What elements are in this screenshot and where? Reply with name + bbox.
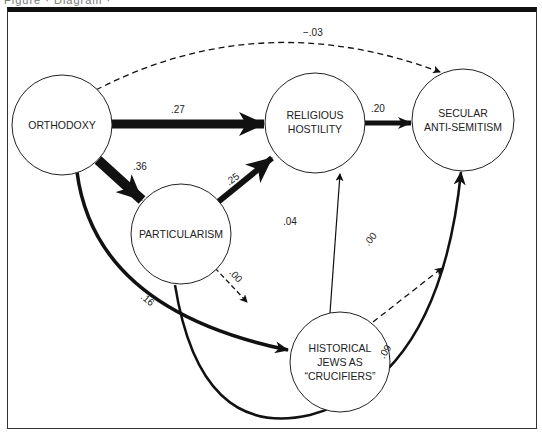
path-diagram: ORTHODOXY RELIGIOUS HOSTILITY SECULAR AN… [0,0,542,433]
coef-orthodoxy-secular: −.03 [303,27,323,38]
node-historical-jews: HISTORICAL JEWS AS “CRUCIFIERS” [290,312,390,412]
svg-text:PARTICULARISM: PARTICULARISM [139,228,223,240]
edge-orthodoxy-secular [96,42,440,90]
node-orthodoxy: ORTHODOXY [12,75,112,175]
coef-orthodoxy-historical-jews: .16 [139,291,157,309]
svg-text:SECULAR: SECULAR [438,107,488,119]
node-religious-hostility: RELIGIOUS HOSTILITY [265,73,365,173]
coef-orthodoxy-particularism: .36 [133,161,147,172]
svg-text:ORTHODOXY: ORTHODOXY [28,119,95,131]
svg-text:RELIGIOUS: RELIGIOUS [286,109,343,121]
coef-historical-jews-secular: .00 [362,230,380,248]
svg-text:ANTI-SEMITISM: ANTI-SEMITISM [424,121,502,133]
svg-text:HOSTILITY: HOSTILITY [288,123,342,135]
coef-religious-hostility-secular: .20 [371,103,385,114]
node-secular-antisemitism: SECULAR ANTI-SEMITISM [412,69,514,171]
svg-text:JEWS AS: JEWS AS [317,356,363,368]
svg-text:HISTORICAL: HISTORICAL [309,342,372,354]
coef-orthodoxy-religious-hostility: .27 [171,104,185,115]
coef-particularism-historical-jews: .00 [227,267,245,285]
node-particularism: PARTICULARISM [131,184,231,284]
svg-text:“CRUCIFIERS”: “CRUCIFIERS” [304,370,376,382]
edge-historical-jews-religious-hostility [330,174,340,313]
edge-historical-jews-secular [373,268,442,322]
coef-historical-jews-religious-hostility: .04 [283,216,297,227]
